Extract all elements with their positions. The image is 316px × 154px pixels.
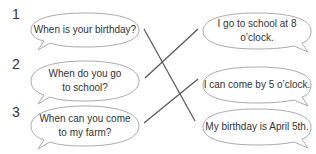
matching-lines: [0, 0, 316, 154]
match-line-1-to-3[interactable]: [144, 29, 195, 121]
match-line-3-to-2[interactable]: [144, 79, 198, 123]
match-line-2-to-1[interactable]: [145, 29, 198, 78]
